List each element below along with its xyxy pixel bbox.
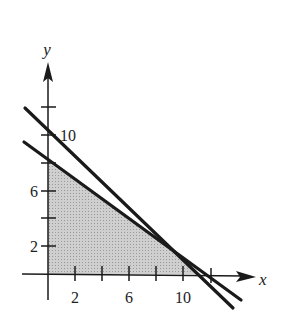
- x-axis: [22, 274, 246, 276]
- x-tick-label-2: 2: [71, 289, 79, 306]
- x-axis-label: x: [258, 270, 267, 289]
- x-tick-label-10: 10: [175, 289, 191, 306]
- linear-inequality-graph: x y 2 6 10 2 6 10: [0, 0, 285, 327]
- y-tick-label-10: 10: [60, 127, 76, 144]
- y-axis-label: y: [41, 40, 51, 59]
- y-tick-label-6: 6: [30, 183, 38, 200]
- x-tick-label-6: 6: [125, 289, 133, 306]
- feasible-region: [48, 162, 197, 274]
- y-tick-label-2: 2: [30, 238, 38, 255]
